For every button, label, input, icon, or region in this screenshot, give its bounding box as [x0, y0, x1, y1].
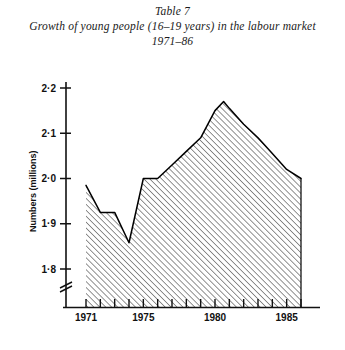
chart-plot: 2·22·12·01·91·8 1971197519801985 Numbers… [0, 0, 345, 350]
area-fill [86, 102, 301, 307]
x-tick-label: 1985 [276, 312, 299, 323]
y-tick-label: 1·9 [42, 218, 57, 229]
figure-container: Table 7 Growth of young people (16–19 ye… [0, 0, 345, 350]
y-tick-label: 2·1 [42, 128, 57, 139]
x-tick-label: 1971 [75, 312, 98, 323]
x-tick-label: 1975 [132, 312, 155, 323]
y-axis-title: Numbers (millions) [28, 150, 38, 232]
y-tick-label: 2·2 [42, 83, 57, 94]
x-tick-label: 1980 [204, 312, 227, 323]
y-tick-label: 1·8 [42, 264, 57, 275]
y-tick-label: 2·0 [42, 173, 57, 184]
